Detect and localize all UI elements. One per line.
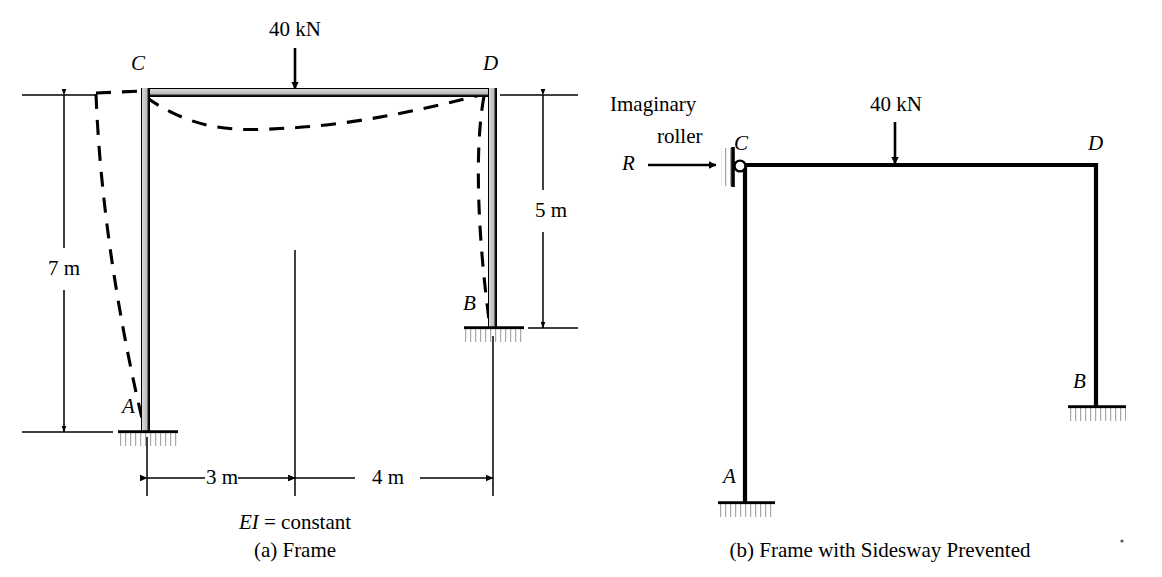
support-A-a — [118, 432, 178, 446]
deflected-shape-a — [96, 94, 490, 431]
node-label-D-a: D — [483, 53, 498, 74]
diagram-canvas: 40 kN C D A B 7 m 5 m 3 m 4 m EI = const… — [0, 0, 1162, 577]
node-label-B-a: B — [463, 293, 476, 314]
panel-b-frame — [648, 122, 1126, 543]
deflected-column-AC — [96, 94, 145, 431]
dimension-label-3m: 3 m — [206, 467, 238, 488]
support-B-a — [464, 328, 524, 342]
load-label-a: 40 kN — [269, 19, 321, 40]
node-label-A-b: A — [723, 466, 736, 487]
panel-a-frame — [22, 48, 578, 496]
ei-symbol: EI — [239, 510, 259, 534]
node-label-B-b: B — [1073, 371, 1086, 392]
support-B-b — [1068, 407, 1126, 421]
ei-constant-note: EI = constant — [239, 512, 351, 533]
caption-panel-b: (b) Frame with Sidesway Prevented — [730, 540, 1031, 561]
member-column-BD-a — [488, 88, 497, 329]
dimension-label-7m: 7 m — [48, 258, 80, 279]
dimension-label-4m: 4 m — [372, 467, 404, 488]
deflected-beam-CD — [146, 94, 484, 130]
node-label-A-a: A — [122, 396, 135, 417]
node-label-C-a: C — [131, 53, 145, 74]
imaginary-roller-label-line2: roller — [657, 126, 702, 147]
dimension-label-5m: 5 m — [535, 200, 567, 221]
support-A-b — [718, 503, 775, 517]
reaction-label-R: R — [622, 153, 635, 174]
load-label-b: 40 kN — [870, 94, 922, 115]
node-label-C-b: C — [734, 133, 748, 154]
dimension-span-a — [147, 250, 493, 496]
print-speck — [1120, 539, 1123, 542]
frame-diagram-svg — [0, 0, 1162, 577]
caption-panel-a: (a) Frame — [254, 540, 336, 561]
member-column-AC-a — [141, 88, 150, 433]
member-beam-CD-a — [143, 88, 495, 97]
ei-rest: = constant — [259, 510, 351, 534]
deflected-top-stub — [96, 91, 143, 93]
imaginary-roller-label-line1: Imaginary — [610, 94, 696, 115]
node-label-D-b: D — [1088, 133, 1103, 154]
